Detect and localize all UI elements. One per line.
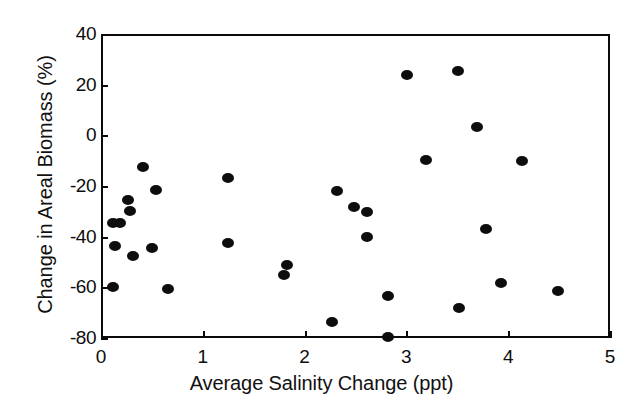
x-tick-5 [610,331,612,338]
y-tick-40 [101,34,108,36]
y-tick-label-20: 20 [76,74,96,96]
x-tick-4 [508,331,510,338]
y-tick-label--80: -80 [70,327,96,349]
x-axis-title: Average Salinity Change (ppt) [0,372,643,395]
x-tick-label-0: 0 [96,346,107,368]
y-tick-0 [101,135,108,137]
x-tick-label-1: 1 [198,346,209,368]
x-tick-label-2: 2 [299,346,310,368]
x-tick-label-4: 4 [503,346,514,368]
y-tick-label-0: 0 [86,124,96,146]
y-axis-title: Change in Areal Biomass (%) [34,30,57,340]
x-tick-3 [406,331,408,338]
y-tick--40 [101,237,108,239]
y-tick-label-40: 40 [76,23,96,45]
y-tick-20 [101,85,108,87]
x-tick-0 [101,331,103,338]
y-tick--20 [101,186,108,188]
x-tick-2 [305,331,307,338]
y-tick-label--20: -20 [70,175,96,197]
y-tick-label--60: -60 [70,276,96,298]
scatter-plot-figure: 40 20 0 -20 -40 -60 -80 0 1 2 3 4 5 Aver… [0,0,643,415]
y-tick--80 [101,338,108,340]
y-tick-label--40: -40 [70,226,96,248]
x-tick-1 [203,331,205,338]
x-tick-label-3: 3 [401,346,412,368]
y-tick--60 [101,287,108,289]
x-tick-label-5: 5 [605,346,616,368]
